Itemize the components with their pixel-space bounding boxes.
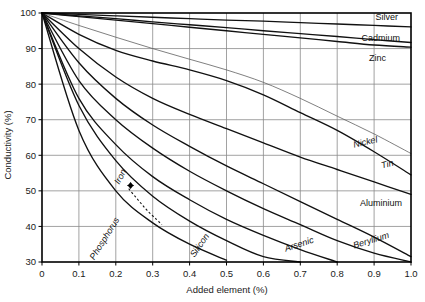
- x-tick-label: 0.5: [220, 268, 233, 279]
- x-tick-label: 0.1: [72, 268, 85, 279]
- x-tick-label: 0.4: [183, 268, 196, 279]
- x-tick-label: 1.0: [404, 268, 417, 279]
- curve-label-aluminium: Aluminium: [360, 198, 402, 208]
- y-tick-label: 70: [25, 114, 36, 125]
- x-tick-label: 0.2: [109, 268, 122, 279]
- y-tick-label: 30: [25, 256, 36, 267]
- chart-background: [0, 0, 425, 302]
- x-tick-label: 0.3: [146, 268, 159, 279]
- y-tick-label: 90: [25, 43, 36, 54]
- y-axis-title: Conductivity (%): [2, 110, 13, 179]
- curve-label-zinc: Zinc: [369, 53, 387, 63]
- x-tick-label: 0.7: [294, 268, 307, 279]
- x-tick-label: 0.8: [331, 268, 344, 279]
- y-tick-label: 60: [25, 150, 36, 161]
- x-axis-title: Added element (%): [186, 284, 267, 295]
- chart-figure: 00.10.20.30.40.50.60.70.80.91.0304050607…: [0, 0, 425, 302]
- curve-label-silver: Silver: [375, 12, 398, 22]
- x-tick-label: 0.6: [257, 268, 270, 279]
- conductivity-vs-added-element-chart: 00.10.20.30.40.50.60.70.80.91.0304050607…: [0, 0, 425, 302]
- y-tick-label: 100: [20, 7, 36, 18]
- y-tick-label: 50: [25, 185, 36, 196]
- x-tick-label: 0: [39, 268, 44, 279]
- x-tick-label: 0.9: [367, 268, 380, 279]
- y-tick-label: 80: [25, 79, 36, 90]
- y-tick-label: 40: [25, 221, 36, 232]
- curve-label-cadmium: Cadmium: [361, 33, 400, 43]
